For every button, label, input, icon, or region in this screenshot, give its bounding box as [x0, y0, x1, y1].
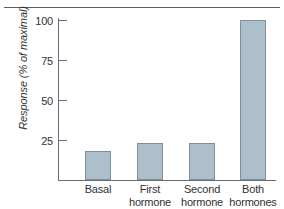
bar-both-hormones [240, 20, 266, 180]
y-tick-25: 25 [58, 140, 67, 141]
y-tick-label-25: 25 [41, 135, 53, 147]
y-tick-75: 75 [58, 60, 67, 61]
x-label-second-hormone-line1: Second [184, 183, 220, 195]
top-divider-rule [4, 7, 280, 8]
x-label-first-hormone-line1: First [140, 183, 160, 195]
bar-first-hormone [137, 143, 163, 180]
y-tick-50: 50 [58, 100, 67, 101]
x-label-both-hormones-line1: Both [242, 183, 264, 195]
x-axis-spine [58, 180, 276, 181]
y-tick-label-75: 75 [41, 55, 53, 67]
y-axis-title: Response (% of maximal) [17, 0, 29, 143]
y-tick-100: 100 [58, 20, 67, 21]
figure-container: Response (% of maximal) 100 75 50 25 Bas… [0, 0, 284, 209]
y-tick-label-100: 100 [35, 15, 53, 27]
bar-second-hormone [189, 143, 215, 180]
x-label-basal-line1: Basal [85, 183, 112, 195]
y-tick-label-50: 50 [41, 95, 53, 107]
x-label-both-hormones: Both hormones [219, 183, 284, 208]
x-label-both-hormones-line2: hormones [219, 196, 284, 209]
bar-basal [85, 151, 111, 180]
